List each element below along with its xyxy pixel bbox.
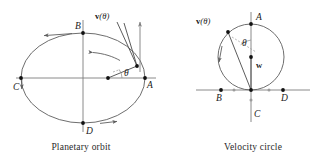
orbit-point-c — [19, 76, 23, 80]
circle-label-a: A — [255, 12, 262, 22]
orbit-label-velocity: v(θ) — [95, 11, 109, 21]
orbit-point-b — [81, 31, 85, 35]
orbit-focus-point — [106, 76, 110, 80]
orbit-radius-line — [108, 66, 137, 78]
orbit-velocity-vector — [117, 22, 137, 66]
circle-point-c — [249, 88, 253, 92]
orbit-label-a: A — [146, 80, 153, 90]
circle-label-velocity-arg: (θ) — [200, 16, 210, 26]
orbit-velocity-vector-edge — [124, 23, 137, 66]
circle-label-b: B — [216, 93, 222, 103]
figure-root: A B C D θ v(θ) — [0, 0, 319, 160]
circle-axis-tick-right — [268, 89, 271, 92]
orbit-inner-motion-arrow — [93, 53, 120, 61]
planetary-orbit-group: A B C D θ v(θ) — [13, 11, 156, 136]
circle-point-a — [249, 22, 253, 26]
orbit-point-d — [81, 121, 85, 125]
orbit-label-theta: θ — [124, 68, 129, 78]
circle-axis-tick-bottom — [250, 99, 253, 102]
orbit-label-velocity-arg: (θ) — [99, 11, 109, 21]
circle-w-tip — [249, 55, 253, 59]
circle-point-b — [219, 88, 223, 92]
orbit-theta-arc — [119, 70, 122, 78]
orbit-label-c: C — [13, 82, 20, 92]
circle-point-v — [226, 30, 230, 34]
orbit-label-d: D — [85, 126, 93, 136]
orbit-moving-point — [135, 64, 139, 68]
figure-canvas: A B C D θ v(θ) — [0, 0, 319, 160]
orbit-lower-direction-arrow — [100, 121, 117, 123]
circle-label-c: C — [254, 109, 261, 119]
circle-axis-tick-left — [233, 89, 236, 92]
circle-point-d — [281, 88, 285, 92]
circle-label-d: D — [280, 93, 288, 103]
velocity-circle-group: A B C D θ w v(θ) — [196, 12, 310, 122]
circle-label-velocity: v(θ) — [196, 16, 210, 26]
orbit-theta-leader — [113, 70, 120, 73]
circle-label-w: w — [256, 60, 263, 70]
caption-velocity-circle: Velocity circle — [198, 142, 308, 152]
caption-planetary-orbit: Planetary orbit — [26, 142, 136, 152]
orbit-label-b: B — [75, 21, 81, 31]
circle-label-theta: θ — [242, 38, 247, 48]
